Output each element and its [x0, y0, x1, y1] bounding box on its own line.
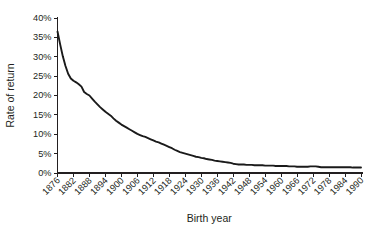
- y-tick-label: 15%: [33, 110, 51, 120]
- rate-of-return-series: [58, 32, 362, 168]
- x-tick-label: 1990: [344, 175, 366, 197]
- chart-figure: 0%5%10%15%20%25%30%35%40% 18761882188818…: [0, 0, 377, 231]
- rate-of-return-line-chart: 0%5%10%15%20%25%30%35%40% 18761882188818…: [0, 0, 377, 231]
- y-tick-label: 40%: [33, 13, 51, 23]
- y-axis-title: Rate of return: [4, 63, 16, 127]
- x-axis-title: Birth year: [187, 212, 232, 224]
- y-tick-label: 35%: [33, 32, 51, 42]
- y-axis-ticks: 0%5%10%15%20%25%30%35%40%: [33, 13, 57, 178]
- y-tick-label: 25%: [33, 71, 51, 81]
- y-tick-label: 10%: [33, 129, 51, 139]
- y-tick-label: 30%: [33, 52, 51, 62]
- y-tick-label: 20%: [33, 90, 51, 100]
- y-tick-label: 5%: [38, 149, 51, 159]
- x-axis-ticks: 1876188218881894190019061912191819241930…: [40, 173, 365, 197]
- y-tick-label: 0%: [38, 168, 51, 178]
